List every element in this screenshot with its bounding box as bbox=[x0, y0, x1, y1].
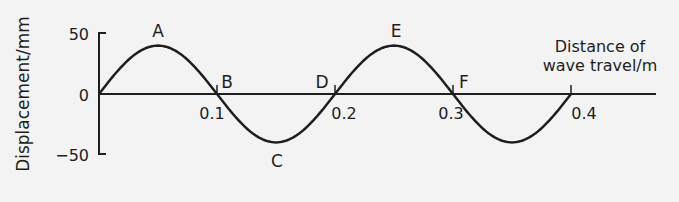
y-tick-label: 0 bbox=[79, 86, 89, 105]
x-ticks bbox=[217, 85, 571, 94]
point-label-b: B bbox=[221, 72, 233, 92]
x-axis-label-line2: wave travel/m bbox=[543, 56, 658, 75]
wave-chart: Displacement/mm 50 0 −50 0.1 0.2 0.3 0.4… bbox=[0, 0, 679, 202]
x-tick-label: 0.2 bbox=[331, 104, 356, 123]
y-axis-label: Displacement/mm bbox=[13, 16, 33, 172]
point-label-e: E bbox=[391, 21, 402, 41]
point-label-f: F bbox=[459, 72, 469, 92]
point-label-d: D bbox=[315, 72, 328, 92]
x-tick-label: 0.3 bbox=[438, 104, 463, 123]
point-label-a: A bbox=[152, 21, 164, 41]
x-axis-label-line1: Distance of bbox=[555, 37, 646, 56]
x-tick-label: 0.1 bbox=[199, 104, 224, 123]
y-tick-label: −50 bbox=[55, 146, 89, 165]
x-tick-label: 0.4 bbox=[571, 104, 596, 123]
y-tick-label: 50 bbox=[69, 25, 89, 44]
point-label-c: C bbox=[271, 151, 283, 171]
